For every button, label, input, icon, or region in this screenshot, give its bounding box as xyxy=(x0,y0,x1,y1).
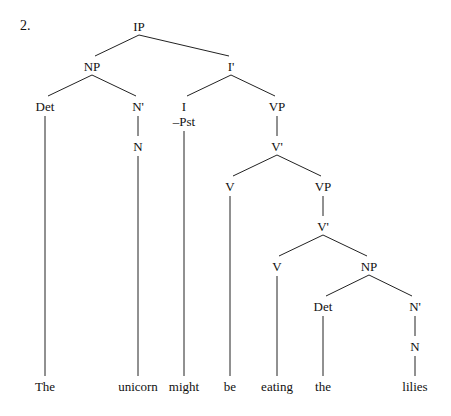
word-be: be xyxy=(224,380,236,394)
node-vp-upper: VP xyxy=(269,100,286,114)
node-ip: IP xyxy=(133,20,145,34)
node-n-subject: N xyxy=(133,140,142,154)
node-i-bar: I' xyxy=(228,60,235,74)
node-i-feature-pst: –Pst xyxy=(173,115,195,129)
word-the: The xyxy=(35,380,55,394)
node-v-lower: V xyxy=(272,260,281,274)
node-np-object: NP xyxy=(361,260,378,274)
word-eating: eating xyxy=(261,380,293,394)
node-v-bar-lower: V' xyxy=(317,220,329,234)
node-v-upper: V xyxy=(225,180,234,194)
node-i: I xyxy=(182,100,186,114)
word-unicorn: unicorn xyxy=(118,380,158,394)
word-the-object: the xyxy=(315,380,331,394)
node-vp-lower: VP xyxy=(315,180,332,194)
example-number: 2. xyxy=(20,18,31,34)
word-might: might xyxy=(169,380,199,394)
node-v-bar-upper: V' xyxy=(271,140,283,154)
node-det-subject: Det xyxy=(36,100,55,114)
node-np-subject: NP xyxy=(84,60,101,74)
node-n-bar-subject: N' xyxy=(132,100,144,114)
node-det-object: Det xyxy=(314,300,333,314)
word-lilies: lilies xyxy=(402,380,427,394)
tree-branches xyxy=(0,0,451,416)
node-n-bar-object: N' xyxy=(409,300,421,314)
node-n-object: N xyxy=(410,340,419,354)
